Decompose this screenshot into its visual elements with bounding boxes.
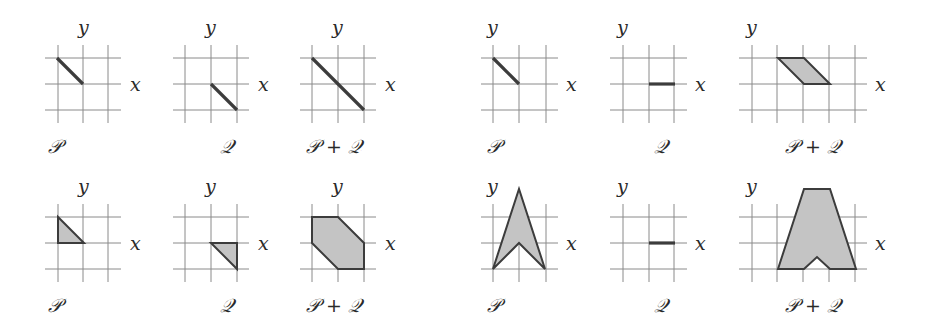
segment-shape bbox=[57, 58, 83, 84]
y-axis-label: y bbox=[331, 16, 343, 38]
grid bbox=[481, 45, 558, 123]
polygon-shape bbox=[778, 189, 856, 269]
set-label: 𝒫 + 𝒬 bbox=[785, 294, 844, 316]
polygon-shape bbox=[778, 58, 830, 84]
set-label: 𝒬 bbox=[220, 135, 237, 157]
y-axis-label: y bbox=[486, 175, 498, 197]
x-axis-label: x bbox=[875, 232, 886, 254]
set-label: 𝒬 bbox=[654, 135, 671, 157]
set-label: 𝒫 bbox=[487, 294, 506, 316]
x-axis-label: x bbox=[385, 73, 396, 95]
set-label: 𝒫 + 𝒬 bbox=[306, 294, 365, 316]
polygon-shape bbox=[211, 243, 237, 269]
polygon-shape bbox=[312, 217, 364, 269]
panel-top-right-P: yx𝒫 bbox=[481, 16, 577, 157]
panel-bottom-right-P: yx𝒫 bbox=[481, 175, 577, 316]
segment-shape bbox=[493, 58, 519, 84]
y-axis-label: y bbox=[204, 175, 216, 197]
set-label: 𝒫 + 𝒬 bbox=[785, 135, 844, 157]
y-axis-label: y bbox=[745, 175, 757, 197]
set-label: 𝒬 bbox=[654, 294, 671, 316]
panel-top-left-P: yx𝒫 bbox=[45, 16, 141, 157]
y-axis-label: y bbox=[616, 175, 628, 197]
y-axis-label: y bbox=[204, 16, 216, 38]
panel-bottom-right-PQ: yx𝒫 + 𝒬 bbox=[739, 175, 886, 316]
panel-bottom-left-P: yx𝒫 bbox=[45, 175, 141, 316]
x-axis-label: x bbox=[385, 232, 396, 254]
y-axis-label: y bbox=[77, 16, 89, 38]
set-label: 𝒫 bbox=[48, 294, 67, 316]
set-label: 𝒫 bbox=[487, 135, 506, 157]
minkowski-sum-figure: yx𝒫yx𝒬yx𝒫 + 𝒬yx𝒫yx𝒬yx𝒫 + 𝒬yx𝒫yx𝒬yx𝒫 + 𝒬y… bbox=[0, 0, 929, 330]
y-axis-label: y bbox=[616, 16, 628, 38]
x-axis-label: x bbox=[130, 73, 141, 95]
x-axis-label: x bbox=[130, 232, 141, 254]
set-label: 𝒫 bbox=[48, 135, 67, 157]
panel-top-right-Q: yx𝒬 bbox=[610, 16, 706, 157]
panel-bottom-right-Q: yx𝒬 bbox=[610, 175, 706, 316]
polygon-shape bbox=[58, 217, 84, 243]
set-label: 𝒬 bbox=[220, 294, 237, 316]
panel-top-right-PQ: yx𝒫 + 𝒬 bbox=[739, 16, 886, 157]
grid bbox=[610, 204, 687, 282]
y-axis-label: y bbox=[745, 16, 757, 38]
segment-shape bbox=[211, 84, 237, 110]
panel-top-left-Q: yx𝒬 bbox=[173, 16, 269, 157]
y-axis-label: y bbox=[486, 16, 498, 38]
x-axis-label: x bbox=[566, 232, 577, 254]
panel-bottom-left-Q: yx𝒬 bbox=[173, 175, 269, 316]
grid bbox=[610, 45, 687, 123]
x-axis-label: x bbox=[566, 73, 577, 95]
panel-top-left-PQ: yx𝒫 + 𝒬 bbox=[300, 16, 396, 157]
x-axis-label: x bbox=[258, 232, 269, 254]
set-label: 𝒫 + 𝒬 bbox=[306, 135, 365, 157]
x-axis-label: x bbox=[875, 73, 886, 95]
y-axis-label: y bbox=[77, 175, 89, 197]
panel-bottom-left-PQ: yx𝒫 + 𝒬 bbox=[300, 175, 396, 316]
x-axis-label: x bbox=[258, 73, 269, 95]
x-axis-label: x bbox=[695, 232, 706, 254]
y-axis-label: y bbox=[331, 175, 343, 197]
x-axis-label: x bbox=[695, 73, 706, 95]
